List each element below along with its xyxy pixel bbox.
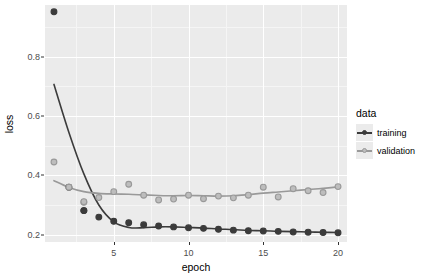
data-point-training [156,223,162,229]
data-point-training [51,9,57,15]
data-point-validation [201,196,207,202]
data-point-training [290,229,296,235]
legend-key-validation [356,142,373,159]
y-axis-tick-label: 0.8 [14,52,40,62]
x-axis-tick-label: 20 [323,248,353,258]
legend-label: validation [377,146,415,156]
legend-label: training [377,128,407,138]
series-smooth-line-training [54,84,338,232]
data-point-validation [171,196,177,202]
x-axis-title: epoch [45,261,347,273]
y-axis-tick-label: 0.2 [14,230,40,240]
y-axis-tick-mark [41,175,44,176]
y-axis-tick-mark [41,116,44,117]
legend-entries: trainingvalidation [356,124,428,159]
data-point-validation [216,193,222,199]
plot-panel [45,5,347,242]
x-axis-tick-mark [114,242,115,245]
x-axis-tick-label: 15 [248,248,278,258]
legend-key-point-icon [362,130,367,135]
data-point-training [96,214,102,220]
data-point-training [201,225,207,231]
data-point-training [81,208,87,214]
data-point-training [230,227,236,233]
data-point-training [171,224,177,230]
legend-entry-validation[interactable]: validation [356,142,428,159]
data-point-validation [260,184,266,190]
x-axis-tick-mark [263,242,264,245]
x-axis-tick-mark [189,242,190,245]
data-point-validation [290,186,296,192]
data-point-training [216,226,222,232]
data-point-validation [230,195,236,201]
data-point-training [126,220,132,226]
data-point-validation [81,199,87,205]
x-axis-tick-mark [338,242,339,245]
y-axis-tick-mark [41,56,44,57]
legend-entry-training[interactable]: training [356,124,428,141]
data-point-training [186,225,192,231]
data-point-training [111,218,117,224]
chart-container: loss 0.20.40.60.8 5101520 epoch data tra… [0,0,429,280]
data-point-training [245,228,251,234]
data-point-validation [51,159,57,165]
data-point-validation [320,190,326,196]
data-point-validation [126,181,132,187]
y-axis-tick-label: 0.6 [14,111,40,121]
data-point-validation [141,192,147,198]
data-point-validation [66,184,72,190]
data-point-training [275,228,281,234]
data-point-validation [111,189,117,195]
data-point-validation [305,188,311,194]
data-point-training [320,230,326,236]
data-point-training [260,228,266,234]
data-point-validation [245,192,251,198]
y-axis-tick-mark [41,234,44,235]
y-axis-tick-labels: 0.20.40.60.8 [12,0,40,280]
data-point-training [141,222,147,228]
data-point-training [335,230,341,236]
data-point-training [305,229,311,235]
x-axis-tick-label: 10 [174,248,204,258]
y-axis-tick-label: 0.4 [14,170,40,180]
plot-series-layer [45,5,347,242]
legend-title: data [356,107,428,119]
data-point-validation [156,197,162,203]
legend-key-point-icon [362,148,367,153]
data-point-validation [96,195,102,201]
legend: data trainingvalidation [356,107,428,160]
x-axis-tick-label: 5 [99,248,129,258]
data-point-validation [335,184,341,190]
legend-key-training [356,124,373,141]
data-point-validation [275,194,281,200]
data-point-validation [186,192,192,198]
